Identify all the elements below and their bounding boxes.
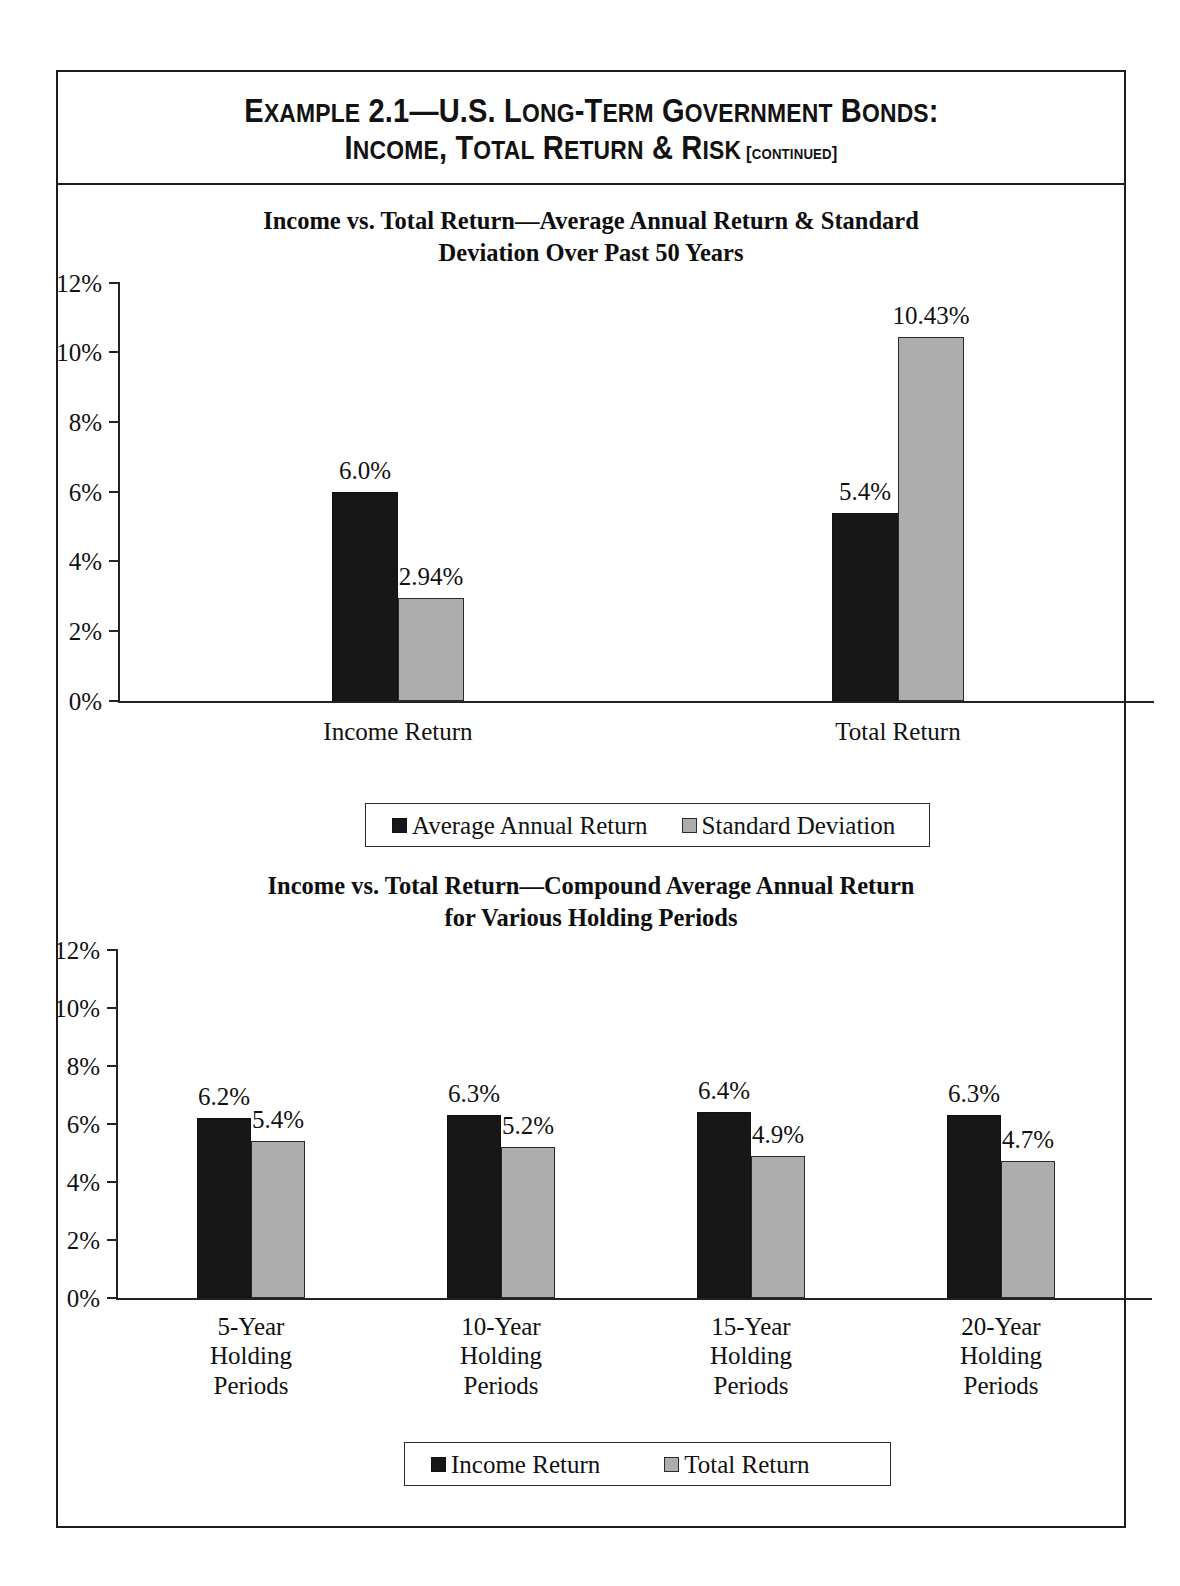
bar-chart-1-0-1 <box>398 598 464 700</box>
y-tick-label: 6% <box>69 479 102 504</box>
chart-1-legend: Average Annual ReturnStandard Deviation <box>365 803 930 847</box>
x-category-label: 15-Year Holding Periods <box>710 1312 792 1401</box>
chart-1-block: Income vs. Total Return—Average Annual R… <box>58 185 1124 885</box>
legend-label: Total Return <box>684 1452 809 1477</box>
title2-word-isk: ISK <box>702 135 741 165</box>
title-word-ong: ONG <box>521 98 574 128</box>
bar-chart-2-2-0 <box>697 1112 751 1298</box>
bar-value-label: 10.43% <box>892 303 969 328</box>
y-tick-mark <box>109 630 120 632</box>
chart-1-bars: 6.0%2.94%Income Return5.4%10.43%Total Re… <box>118 283 1118 703</box>
bar-chart-2-3-1 <box>1001 1161 1055 1297</box>
bar-value-label: 5.4% <box>252 1107 304 1132</box>
y-tick-label: 0% <box>67 1285 100 1310</box>
x-category-label: Total Return <box>835 717 960 747</box>
legend-swatch-icon <box>392 818 407 833</box>
bar-chart-1-0-0 <box>332 492 398 701</box>
title2-comma-t: , T <box>439 129 473 166</box>
bar-value-label: 4.7% <box>1002 1127 1054 1152</box>
title2-word-otal: OTAL <box>473 135 534 165</box>
chart-1-plot-area: 0%2%4%6%8%10%12% 6.0%2.94%Income Return5… <box>118 283 1118 703</box>
chart-2-block: Income vs. Total Return—Compound Average… <box>58 862 1124 1527</box>
bar-value-label: 6.2% <box>198 1084 250 1109</box>
y-tick-mark <box>107 1123 118 1125</box>
legend-item[interactable]: Total Return <box>664 1452 809 1477</box>
bar-chart-2-0-0 <box>197 1118 251 1298</box>
y-tick-label: 0% <box>69 688 102 713</box>
chart-2-title: Income vs. Total Return—Compound Average… <box>201 862 981 934</box>
bar-chart-1-1-1 <box>898 337 964 700</box>
x-category-label: 20-Year Holding Periods <box>960 1312 1042 1401</box>
bar-chart-2-3-0 <box>947 1115 1001 1298</box>
legend-label: Standard Deviation <box>702 813 896 838</box>
x-category-label: 10-Year Holding Periods <box>460 1312 542 1401</box>
y-tick-label: 4% <box>69 549 102 574</box>
title2-bracket-open: [ <box>741 142 752 163</box>
y-tick-mark <box>109 351 120 353</box>
y-tick-label: 2% <box>69 619 102 644</box>
legend-item[interactable]: Income Return <box>431 1452 600 1477</box>
exhibit-title-line-1: EXAMPLE 2.1—U.S. LONG-TERM GOVERNMENT BO… <box>244 93 938 130</box>
legend-label: Average Annual Return <box>412 813 648 838</box>
y-tick-label: 10% <box>56 340 102 365</box>
y-tick-mark <box>109 421 120 423</box>
y-tick-label: 2% <box>67 1227 100 1252</box>
title-word-overnment: OVERNMENT <box>684 98 832 128</box>
x-category-label: Income Return <box>323 717 472 747</box>
chart-2-title-line-2: for Various Holding Periods <box>201 902 981 934</box>
title-char-G: G <box>653 92 684 129</box>
title2-char-R: R <box>535 129 564 166</box>
chart-2-plot-area: 0%2%4%6%8%10%12% 6.2%5.4%5-Year Holding … <box>116 950 1116 1300</box>
chart-1-title-line-2: Deviation Over Past 50 Years <box>201 237 981 269</box>
y-tick-mark <box>107 949 118 951</box>
chart-2-bars: 6.2%5.4%5-Year Holding Periods6.3%5.2%10… <box>116 950 1116 1300</box>
title2-continued: CONTINUED <box>752 145 832 162</box>
y-tick-mark <box>107 1065 118 1067</box>
legend-item[interactable]: Average Annual Return <box>392 813 648 838</box>
y-tick-label: 10% <box>54 995 100 1020</box>
bar-value-label: 4.9% <box>752 1122 804 1147</box>
y-tick-mark <box>109 282 120 284</box>
chart-2-title-line-1: Income vs. Total Return—Compound Average… <box>201 870 981 902</box>
bar-value-label: 2.94% <box>399 564 464 589</box>
y-tick-label: 12% <box>54 937 100 962</box>
title-number: 2.1—U.S. L <box>360 92 522 129</box>
y-tick-mark <box>109 491 120 493</box>
bar-chart-2-1-0 <box>447 1115 501 1298</box>
legend-swatch-icon <box>682 818 697 833</box>
bar-value-label: 5.2% <box>502 1113 554 1138</box>
title2-word-ncome: NCOME <box>353 135 439 165</box>
bar-value-label: 6.3% <box>948 1081 1000 1106</box>
chart-2-y-axis: 0%2%4%6%8%10%12% <box>50 950 112 1300</box>
chart-2-legend: Income ReturnTotal Return <box>404 1442 891 1486</box>
chart-1-title-line-1: Income vs. Total Return—Average Annual R… <box>201 205 981 237</box>
title-char-B: B <box>832 92 861 129</box>
y-tick-label: 6% <box>67 1111 100 1136</box>
y-tick-mark <box>107 1181 118 1183</box>
chart-1-y-axis: 0%2%4%6%8%10%12% <box>52 283 114 703</box>
bar-value-label: 6.3% <box>448 1081 500 1106</box>
exhibit-header: EXAMPLE 2.1—U.S. LONG-TERM GOVERNMENT BO… <box>58 72 1124 185</box>
bar-value-label: 6.0% <box>339 458 391 483</box>
x-category-label: 5-Year Holding Periods <box>210 1312 292 1401</box>
legend-swatch-icon <box>431 1457 446 1472</box>
title-colon: : <box>928 92 938 129</box>
bar-chart-1-1-0 <box>832 513 898 701</box>
title-dash-t: -T <box>574 92 602 129</box>
y-tick-mark <box>109 700 120 702</box>
y-tick-mark <box>107 1007 118 1009</box>
bar-value-label: 6.4% <box>698 1078 750 1103</box>
legend-label: Income Return <box>451 1452 600 1477</box>
bar-chart-2-2-1 <box>751 1156 805 1298</box>
exhibit-title-line-2: INCOME, TOTAL RETURN & RISK [CONTINUED] <box>345 130 838 167</box>
y-tick-label: 8% <box>69 410 102 435</box>
legend-swatch-icon <box>664 1457 679 1472</box>
legend-item[interactable]: Standard Deviation <box>682 813 896 838</box>
title-word-erm: ERM <box>602 98 653 128</box>
title2-amp-r: & R <box>644 129 703 166</box>
title-word-onds: ONDS <box>861 98 928 128</box>
title-char-E: E <box>244 92 264 129</box>
title2-bracket-close: ] <box>832 142 838 163</box>
bar-chart-2-0-1 <box>251 1141 305 1298</box>
y-tick-label: 8% <box>67 1053 100 1078</box>
